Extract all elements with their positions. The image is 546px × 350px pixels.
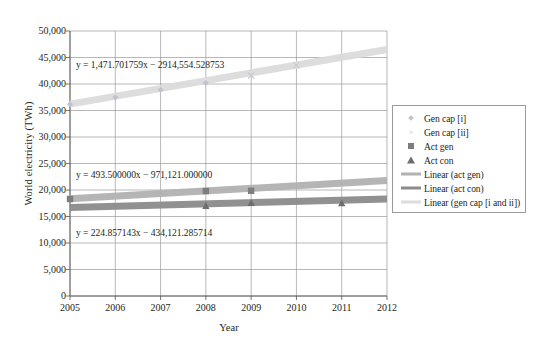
triangle-marker-icon (400, 154, 422, 166)
data-point-marker (248, 188, 254, 194)
x-tick-label: 2005 (47, 302, 93, 313)
line-swatch-gen-cap-icon (400, 196, 422, 208)
legend-item-label: Act gen (424, 141, 453, 152)
y-tick-label: 30,000 (4, 131, 66, 142)
legend-item-label: Gen cap [ii] (424, 127, 469, 138)
trendline-equation-label: y = 224.857143x − 434,121.285714 (76, 227, 212, 238)
legend-item[interactable]: Gen cap [i] (393, 111, 525, 125)
x-tick-label: 2007 (138, 302, 184, 313)
legend-item[interactable]: Act gen (393, 139, 525, 153)
x-tick-label: 2006 (92, 302, 138, 313)
legend-item[interactable]: Linear (act con) (393, 181, 525, 195)
legend-item[interactable]: Act con (393, 153, 525, 167)
y-tick-label: 5,000 (4, 264, 66, 275)
y-tick-label: 45,000 (4, 52, 66, 63)
trendline (70, 180, 387, 198)
legend-item-label: Linear (act gen) (424, 169, 484, 180)
legend-item-label: Linear (act con) (424, 183, 484, 194)
y-tick-label: 35,000 (4, 105, 66, 116)
x-tick-label: 2011 (319, 302, 365, 313)
data-point-marker (67, 196, 73, 202)
legend-item[interactable]: ×Gen cap [ii] (393, 125, 525, 139)
y-tick-label: 50,000 (4, 25, 66, 36)
x-tick-label: 2009 (228, 302, 274, 313)
legend-item[interactable]: Linear (gen cap [i and ii]) (393, 195, 525, 209)
y-tick-label: 10,000 (4, 237, 66, 248)
y-tick-label: 15,000 (4, 211, 66, 222)
x-axis-title: Year (70, 322, 388, 333)
x-tick-label: 2008 (183, 302, 229, 313)
trendline-equation-label: y = 493.500000x − 971,121.000000 (76, 169, 212, 180)
diamond-marker-icon (400, 112, 422, 124)
chart-legend: Gen cap [i]×Gen cap [ii]Act genAct conLi… (392, 105, 526, 213)
line-swatch-act-gen-icon (400, 168, 422, 180)
y-tick-label: 0 (4, 290, 66, 301)
legend-item-label: Linear (gen cap [i and ii]) (424, 197, 520, 208)
x-tick-label: 2012 (364, 302, 410, 313)
legend-item-label: Gen cap [i] (424, 113, 466, 124)
y-tick-label: 20,000 (4, 184, 66, 195)
y-tick-label: 25,000 (4, 158, 66, 169)
legend-item-label: Act con (424, 155, 453, 166)
legend-item[interactable]: Linear (act gen) (393, 167, 525, 181)
data-point-marker (203, 188, 209, 194)
chart-container: World electricity (TWh) Year 05,00010,00… (0, 0, 546, 350)
y-axis-title: World electricity (TWh) (23, 74, 34, 234)
line-swatch-act-con-icon (400, 182, 422, 194)
x-tick-label: 2010 (273, 302, 319, 313)
cross-marker-icon: × (400, 126, 422, 138)
square-marker-icon (400, 140, 422, 152)
trendline-equation-label: y = 1,471.701759x − 2914,554.528753 (76, 59, 224, 70)
y-tick-label: 40,000 (4, 78, 66, 89)
